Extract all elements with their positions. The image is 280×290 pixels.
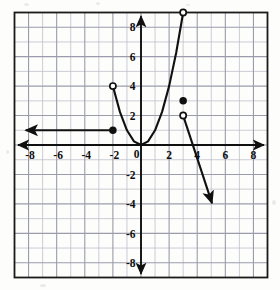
x-tick-label-0: 0 [134, 148, 140, 160]
graph-screenshot: -8-6-4-2024688642-2-4-6-8 [0, 0, 280, 290]
y-tick-label-8: 8 [130, 21, 136, 33]
y-tick-label--6: -6 [126, 228, 136, 240]
coordinate-plane-chart: -8-6-4-2024688642-2-4-6-8 [0, 0, 280, 290]
x-tick-label--2: -2 [110, 149, 120, 161]
x-tick-label--8: -8 [25, 149, 35, 161]
y-tick-label-2: 2 [130, 110, 136, 122]
closed-point-left-ray [110, 127, 116, 133]
x-tick-label-2: 2 [166, 149, 172, 161]
open-point-parabola-left [110, 83, 116, 89]
x-tick-label--6: -6 [53, 149, 63, 161]
y-tick-label--8: -8 [126, 257, 136, 269]
y-tick-label--2: -2 [126, 169, 136, 181]
y-tick-label-6: 6 [130, 51, 136, 63]
open-point-parabola-top [180, 9, 186, 15]
y-tick-label--4: -4 [126, 198, 136, 210]
x-tick-label-8: 8 [251, 149, 257, 161]
x-tick-label-6: 6 [222, 149, 228, 161]
x-tick-label--4: -4 [81, 149, 91, 161]
open-point-descending-ray [180, 112, 186, 118]
closed-point-isolated [180, 98, 186, 104]
y-tick-label-4: 4 [130, 80, 136, 92]
